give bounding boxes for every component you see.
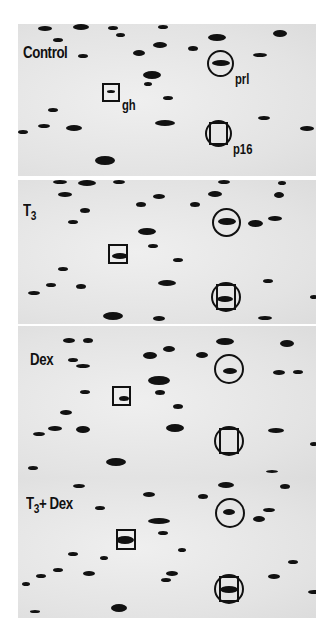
prl-circle-marker — [207, 50, 234, 77]
p16-square-marker — [219, 428, 239, 454]
prl-label: prl — [235, 70, 249, 87]
p16-square-marker — [216, 284, 236, 310]
panel-label-t3: T3 — [23, 201, 36, 223]
p16-square-marker — [219, 576, 239, 602]
label-suffix: + Dex — [39, 494, 73, 513]
gel-figure: Control prl gh p16 — [18, 24, 316, 618]
panel-label-control: Control — [23, 43, 67, 63]
label-subscript: 3 — [31, 208, 36, 223]
panel-label-dex: Dex — [30, 350, 53, 370]
gh-square-marker — [108, 244, 128, 264]
prl-circle-marker — [214, 354, 244, 384]
prl-circle-marker — [212, 208, 241, 237]
panel-label-t3-dex: T3+ Dex — [26, 494, 73, 516]
prl-circle-marker — [215, 498, 245, 528]
panel-dex: Dex — [18, 326, 316, 478]
panel-t3: T3 — [18, 180, 316, 324]
gh-label: gh — [122, 96, 136, 113]
label-text: T — [23, 201, 31, 220]
p16-label: p16 — [233, 140, 252, 157]
gh-square-marker — [116, 529, 136, 550]
label-text: T — [26, 494, 34, 513]
p16-square-marker — [209, 122, 228, 145]
panel-control: Control prl gh p16 — [18, 24, 316, 176]
gh-square-marker — [102, 83, 120, 102]
gh-square-marker — [112, 386, 131, 406]
panel-t3-dex: T3+ Dex — [18, 478, 316, 618]
